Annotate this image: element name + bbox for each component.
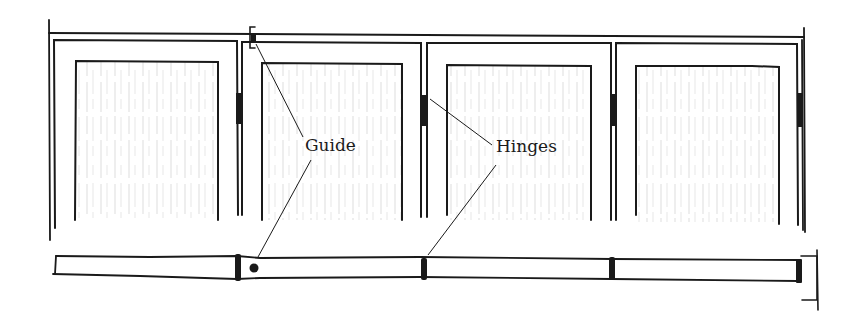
end-jamb-bracket bbox=[801, 250, 818, 310]
hinge-icon bbox=[236, 93, 241, 124]
left-jamb-outer bbox=[49, 20, 50, 240]
right-jamb-outer bbox=[804, 28, 805, 232]
hinge-icon bbox=[421, 258, 427, 280]
hinges-label: Hinges bbox=[496, 138, 557, 155]
door-panel-4 bbox=[616, 40, 803, 230]
plan-top-edge bbox=[56, 256, 798, 260]
door-panel-1 bbox=[54, 40, 238, 228]
hinge-icon bbox=[609, 257, 615, 280]
door-panel-3 bbox=[427, 43, 611, 220]
guide-label: Guide bbox=[305, 137, 356, 154]
hinge-icon bbox=[611, 94, 616, 126]
guide-dot-icon bbox=[250, 264, 259, 273]
folding-door-diagram: Guide Hinges bbox=[0, 0, 866, 326]
guide-icon bbox=[250, 27, 256, 48]
front-elevation bbox=[49, 20, 805, 240]
top-track bbox=[49, 33, 804, 37]
hinge-icon bbox=[235, 254, 241, 281]
hinge-icon bbox=[796, 259, 802, 283]
diagram-drawing bbox=[0, 0, 866, 326]
hinge-icon bbox=[798, 93, 803, 127]
plan-view bbox=[53, 250, 818, 310]
hinge-icon bbox=[422, 95, 427, 126]
